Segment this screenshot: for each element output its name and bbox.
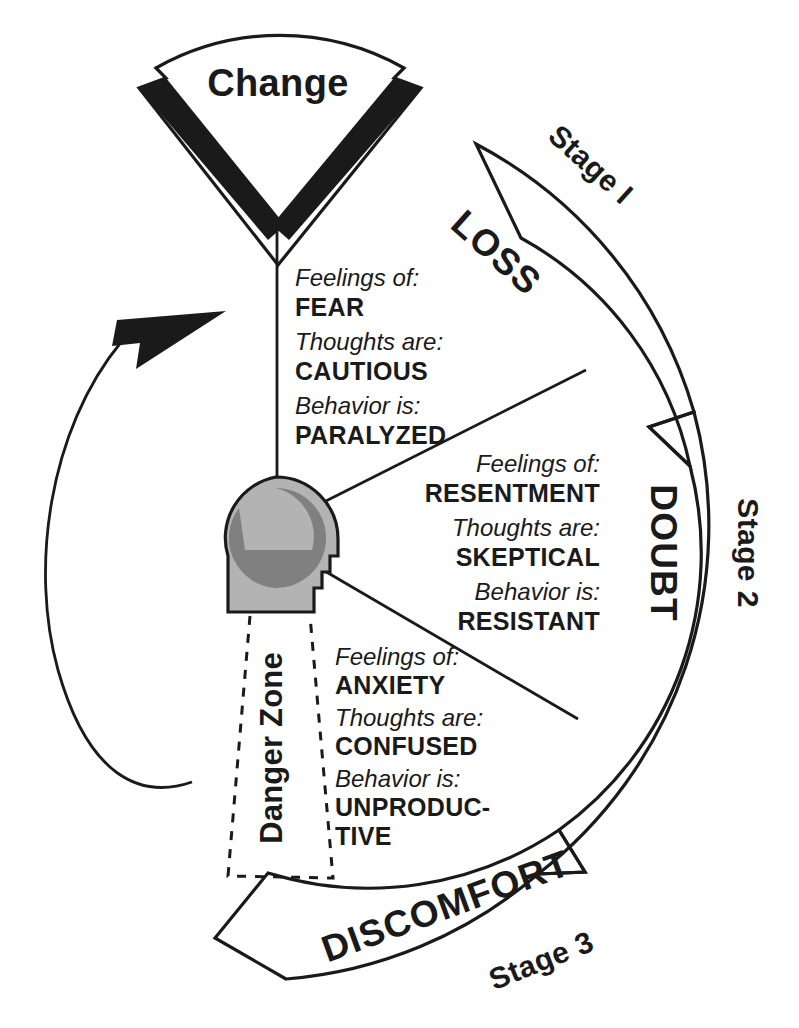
loss-row0-label: Feelings of: <box>295 264 419 291</box>
band-loss[interactable]: LOSS Stage I <box>443 118 694 466</box>
doubt-segment: Feelings of: RESENTMENT Thoughts are: SK… <box>425 450 600 635</box>
disc-row0-label: Feelings of: <box>335 643 459 670</box>
danger-zone[interactable]: Danger Zone <box>228 616 333 878</box>
doubt-row0-label: Feelings of: <box>476 450 600 477</box>
loss-row0-value: FEAR <box>295 293 364 321</box>
band-doubt-label: DOUBT <box>643 484 684 622</box>
doubt-row2-label: Behavior is: <box>475 578 600 605</box>
head-profile-icon <box>225 477 338 612</box>
loss-row1-label: Thoughts are: <box>295 328 443 355</box>
band-loss-label: LOSS <box>443 202 549 303</box>
discomfort-segment: Feelings of: ANXIETY Thoughts are: CONFU… <box>335 643 490 850</box>
disc-row1-value: CONFUSED <box>335 732 478 760</box>
band-doubt-stage: Stage 2 <box>732 498 765 608</box>
change-cycle-diagram: Change LOSS Stage I DOUBT Stage 2 DISCOM… <box>0 0 799 1028</box>
cycle-arrow-arc <box>45 341 192 787</box>
cycle-arrow-head <box>112 311 226 369</box>
loss-segment: Feelings of: FEAR Thoughts are: CAUTIOUS… <box>295 264 446 449</box>
change-wedge-label: Change <box>207 62 349 104</box>
band-discomfort[interactable]: DISCOMFORT Stage 3 <box>215 830 598 996</box>
doubt-row0-value: RESENTMENT <box>425 479 600 507</box>
loss-row1-value: CAUTIOUS <box>295 357 428 385</box>
doubt-row1-label: Thoughts are: <box>452 514 600 541</box>
diagram-canvas: Change LOSS Stage I DOUBT Stage 2 DISCOM… <box>0 0 799 1028</box>
disc-row1-label: Thoughts are: <box>335 704 483 731</box>
disc-row2-value: UNPRODUC- <box>335 793 490 821</box>
danger-zone-label: Danger Zone <box>254 652 289 844</box>
band-discomfort-stage: Stage 3 <box>484 924 598 996</box>
disc-row0-value: ANXIETY <box>335 671 445 699</box>
loss-row2-value: PARALYZED <box>295 421 446 449</box>
disc-row2-label: Behavior is: <box>335 765 460 792</box>
doubt-row1-value: SKEPTICAL <box>456 543 600 571</box>
loss-row2-label: Behavior is: <box>295 392 420 419</box>
band-loss-stage: Stage I <box>542 118 639 210</box>
cycle-arrow <box>45 311 226 787</box>
change-wedge[interactable]: Change <box>139 35 421 265</box>
disc-row3-value: TIVE <box>335 822 392 850</box>
band-loss-outline <box>476 144 694 466</box>
doubt-row2-value: RESISTANT <box>457 607 600 635</box>
